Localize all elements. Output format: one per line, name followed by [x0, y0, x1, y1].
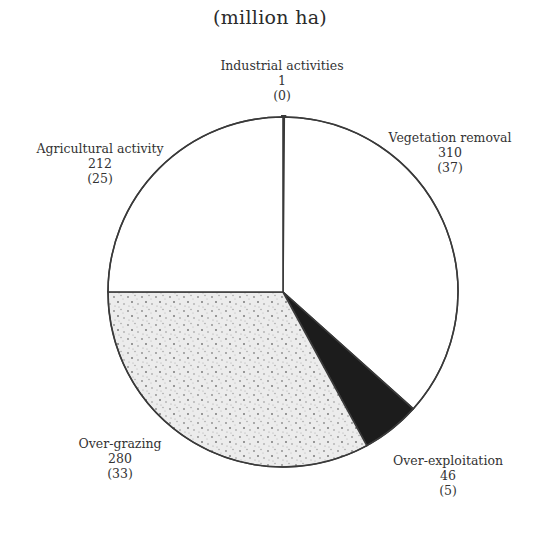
label-percent: (33)	[40, 466, 200, 481]
label-name: Industrial activities	[182, 58, 382, 73]
label-value: 212	[0, 156, 200, 171]
label-name: Over-grazing	[40, 436, 200, 451]
label-value: 1	[182, 73, 382, 88]
label-over-exploitation: Over-exploitation 46 (5)	[358, 453, 538, 498]
label-agricultural-activity: Agricultural activity 212 (25)	[0, 141, 200, 186]
label-industrial-activities: Industrial activities 1 (0)	[182, 58, 382, 103]
label-percent: (25)	[0, 171, 200, 186]
label-name: Agricultural activity	[0, 141, 200, 156]
label-percent: (37)	[350, 160, 540, 175]
label-over-grazing: Over-grazing 280 (33)	[40, 436, 200, 481]
label-value: 46	[358, 468, 538, 483]
label-percent: (0)	[182, 88, 382, 103]
label-name: Vegetation removal	[350, 130, 540, 145]
label-value: 310	[350, 145, 540, 160]
label-percent: (5)	[358, 483, 538, 498]
label-vegetation-removal: Vegetation removal 310 (37)	[350, 130, 540, 175]
label-name: Over-exploitation	[358, 453, 538, 468]
label-value: 280	[40, 451, 200, 466]
